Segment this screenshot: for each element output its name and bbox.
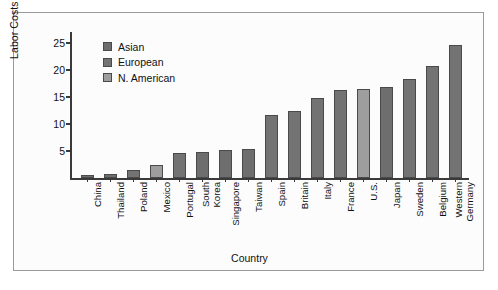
bar-sweden	[403, 79, 416, 178]
x-tick-mark	[156, 178, 157, 182]
x-tick-mark	[363, 178, 364, 182]
y-tick-mark	[66, 69, 70, 70]
y-tick-mark	[66, 96, 70, 97]
bar-taiwan	[242, 149, 255, 178]
x-tick-label: China	[92, 182, 103, 207]
x-tick-mark	[317, 178, 318, 182]
legend-item-namerican: N. American	[103, 70, 223, 86]
bar-mexico	[150, 165, 163, 178]
x-tick-label: Italy	[322, 182, 333, 200]
bar-u-s-	[357, 89, 370, 178]
bar-spain	[265, 115, 278, 178]
bar-belgium	[426, 66, 439, 178]
legend-item-asian: Asian	[103, 39, 223, 55]
x-tick-label: Japan	[391, 182, 402, 208]
x-tick-mark	[271, 178, 272, 182]
chart-legend: AsianEuropeanN. American	[103, 39, 223, 86]
y-tick-mark	[66, 42, 70, 43]
bar-poland	[127, 170, 140, 178]
x-tick-label: Thailand	[115, 182, 126, 219]
legend-label: European	[118, 56, 164, 68]
x-tick-mark	[432, 178, 433, 182]
legend-swatch-icon	[103, 42, 112, 51]
bar-france	[334, 90, 347, 178]
y-axis-line	[70, 32, 72, 178]
bar-south-korea	[196, 152, 209, 178]
x-tick-label: SouthKorea	[200, 182, 222, 208]
x-axis-title-wrap: Country	[14, 252, 485, 266]
x-tick-mark	[87, 178, 88, 182]
x-tick-mark	[340, 178, 341, 182]
y-tick-mark	[66, 123, 70, 124]
x-tick-label: Sweden	[414, 182, 425, 217]
x-tick-label: Spain	[276, 182, 287, 207]
x-tick-label: Taiwan	[253, 182, 264, 212]
x-tick-mark	[386, 178, 387, 182]
x-tick-label: Portugal	[184, 182, 195, 218]
y-tick-mark	[66, 150, 70, 151]
y-axis-title: Labor Costs $	[8, 0, 22, 59]
x-tick-mark	[409, 178, 410, 182]
y-tick-label: 5	[25, 145, 65, 157]
x-tick-mark	[225, 178, 226, 182]
legend-label: Asian	[118, 41, 144, 53]
y-tick-label: 10	[25, 118, 65, 130]
legend-item-european: European	[103, 55, 223, 71]
x-axis-title: Country	[14, 252, 485, 264]
y-tick-label: 20	[25, 64, 65, 76]
bar-western-germany	[449, 45, 462, 178]
x-tick-label: WesternGermany	[453, 182, 475, 221]
x-tick-label: France	[345, 182, 356, 212]
bar-japan	[380, 87, 393, 178]
bar-italy	[311, 98, 324, 178]
legend-swatch-icon	[103, 58, 112, 67]
x-tick-label: Poland	[138, 182, 149, 212]
x-tick-label: U.S.	[368, 182, 379, 201]
bar-portugal	[173, 153, 186, 178]
x-tick-mark	[133, 178, 134, 182]
x-tick-mark	[110, 178, 111, 182]
x-tick-label: Mexico	[161, 182, 172, 212]
x-tick-label: Belgium	[437, 182, 448, 217]
x-tick-mark	[248, 178, 249, 182]
bar-singapore	[219, 150, 232, 178]
x-tick-mark	[294, 178, 295, 182]
x-tick-label: Britain	[299, 182, 310, 209]
legend-label: N. American	[118, 72, 175, 84]
x-tick-mark	[179, 178, 180, 182]
x-tick-label: Singapore	[230, 182, 241, 226]
legend-swatch-icon	[103, 73, 112, 82]
y-tick-label: 25	[25, 37, 65, 49]
y-tick-label: 15	[25, 91, 65, 103]
bar-britain	[288, 111, 301, 178]
chart-figure: Labor Costs $ 510152025 ChinaThailandPol…	[13, 12, 484, 271]
